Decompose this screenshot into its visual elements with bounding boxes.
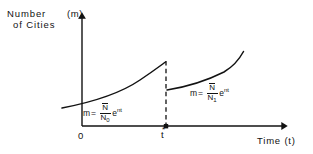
tstar-superscript: * [162, 126, 165, 134]
equation-1-equals: = [91, 108, 96, 118]
tstar-tick-label: * t [161, 130, 164, 141]
equation-2-denominator: N1 [207, 94, 218, 103]
equation-1-fraction: N N0 [100, 104, 111, 122]
equation-2-denominator-subscript: 1 [213, 97, 216, 103]
equation-2-exp-power: nt [224, 87, 229, 93]
x-axis-title: Time (t) [257, 136, 296, 147]
equation-1-lhs: m [83, 108, 90, 118]
equation-1-numerator: N [101, 104, 109, 113]
origin-label: 0 [78, 131, 83, 142]
equation-segment-2: m = N N1 ent [190, 84, 229, 102]
equation-1-denominator-subscript: 0 [106, 117, 109, 123]
y-axis-title: Number of Cities [7, 9, 55, 30]
equation-1-exp-power: nt [117, 107, 122, 113]
figure-container: Number of Cities (m) Time (t) 0 * t m = … [0, 0, 313, 154]
curve-segment-1 [62, 62, 166, 108]
equation-2-fraction: N N1 [207, 84, 218, 102]
y-axis-title-line1: Number [7, 8, 46, 19]
equation-2-equals: = [198, 88, 203, 98]
equation-segment-1: m = N N0 ent [83, 104, 122, 122]
equation-1-denominator: N0 [100, 114, 111, 123]
equation-2-lhs: m [190, 88, 197, 98]
equation-2-numerator: N [208, 84, 216, 93]
y-axis-title-line2: of Cities [7, 20, 55, 31]
y-axis-unit-label: (m) [67, 9, 83, 20]
